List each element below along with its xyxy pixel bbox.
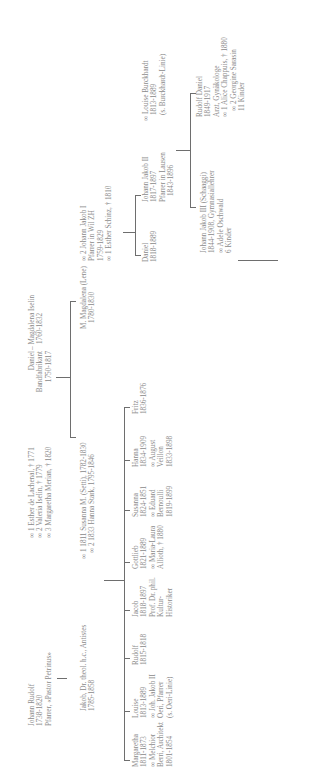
tick-margaretha xyxy=(124,760,130,761)
person-daniel-1818: Daniel 1818-1889 xyxy=(142,231,159,262)
person-louise-burckhardt: ∞ Louise Burckhardt 1813-1889 (s. Burckh… xyxy=(142,54,167,121)
name: Jakob, Dr. theol. h.c., Antistes xyxy=(80,625,88,711)
person-johann-jakob-iii: Johann Jakob III (Schaaggi) 1844-1908, G… xyxy=(200,170,234,253)
dates: 1738-1820 xyxy=(36,652,44,726)
person-johann-rudolf: Johann Rudolf 1738-1820 Pfarrer, «Pastor… xyxy=(28,652,53,726)
connector-johann-rudolf xyxy=(57,678,67,679)
person-gottlieb: Gottlieb 1821-1889 ∞ Maria-Laura Allioth… xyxy=(132,525,166,569)
tick-jacob xyxy=(124,610,130,611)
person-rudolf: Rudolf 1815-1818 xyxy=(132,634,149,665)
connector-johann-jakob-ii xyxy=(176,150,190,151)
person-fritz: Fritz 1836-1876 xyxy=(132,383,149,414)
tick-gottlieb xyxy=(124,562,130,563)
name: – Magdalena Iselin xyxy=(28,295,36,350)
family-tree: Johann Rudolf 1738-1820 Pfarrer, «Pastor… xyxy=(0,0,310,781)
dates: 1750-1817 xyxy=(45,351,53,419)
tick-hanna xyxy=(124,460,130,461)
connector-continuation xyxy=(238,260,278,261)
connector-jakob xyxy=(104,580,124,581)
person-rudolf-daniel: Rudolf Daniel 1849-1917 Arzt, Gynäkologe… xyxy=(196,37,246,117)
spouse-2: ∞ 2 1833 Hanna Stark, 1795-1846 xyxy=(88,442,96,559)
connector-johann-jakob-i-children xyxy=(135,196,136,256)
person-susanna: Susanna 1824-1851 ∞ Eduard Bernoulli 181… xyxy=(132,486,174,517)
person-johann-jakob-ii: Johann Jakob II 1817-1897 Pfarrer in Lau… xyxy=(142,152,176,202)
name: ∞ 2 Johann Jakob I xyxy=(80,186,88,261)
tick-johann-jakob-iii xyxy=(190,207,196,208)
name: Daniel xyxy=(28,351,36,419)
spouse-1: ∞ 1 Esther de Lachenal, † 1771 xyxy=(28,447,36,538)
person-margaretha: Margaretha 1811-1873 ∞ Melchior Berri, A… xyxy=(132,722,174,767)
tick-johann-jakob-ii xyxy=(135,195,141,196)
person-m-magdalena: M. Magdalena (Lene) 1780-1830 xyxy=(80,266,97,329)
connector-daniel-children xyxy=(70,302,71,438)
connector-daniel-right xyxy=(70,301,76,302)
connector-daniel-left xyxy=(70,437,76,438)
tick-fritz xyxy=(124,407,130,408)
person-louise: Louise 1813-1889 ∞ Joh. Jakob II Oeri, P… xyxy=(132,674,174,718)
person-johann-jakob-i: ∞ 2 Johann Jakob I Pfarrer in Wil ZH 175… xyxy=(80,186,114,261)
connector-johann-jakob-ii-children xyxy=(190,94,191,208)
spouse-1: ∞ 1 Esther Schinz, † 1810 xyxy=(105,186,113,261)
dates: 1760-1832 xyxy=(36,295,44,350)
role: Pfarrer in Wil ZH xyxy=(88,186,96,261)
tick-susanna xyxy=(124,510,130,511)
connector-daniel xyxy=(56,377,70,378)
connector-johann-jakob-i xyxy=(123,232,135,233)
person-jakob-antistes: Jakob, Dr. theol. h.c., Antistes 1785-18… xyxy=(80,625,97,711)
spouse-2: ∞ 2 Valeria Iselin, † 1779 xyxy=(36,447,44,538)
spouse-1: ∞ 1 1811 Susanna M. (Setti), 1782-1830 xyxy=(80,442,88,559)
spouses-jakob: ∞ 1 1811 Susanna M. (Setti), 1782-1830 ∞… xyxy=(80,442,97,559)
spouses-johann-rudolf: ∞ 1 Esther de Lachenal, † 1771 ∞ 2 Valer… xyxy=(28,447,53,538)
tick-daniel-1818 xyxy=(135,255,141,256)
role: Pfarrer, «Pastor Petrinus» xyxy=(45,652,53,726)
person-jacob-historiker: Jacob 1818-1897 Prof. Dr. phil. Kultur- … xyxy=(132,577,174,617)
dates: 1759-1829 xyxy=(97,186,105,261)
name: M. Magdalena (Lene) xyxy=(80,266,88,329)
dates: 1785-1858 xyxy=(88,625,96,711)
role: Bandfabrikant xyxy=(36,351,44,419)
name: Johann Rudolf xyxy=(28,652,36,726)
person-magdalena-iselin: – Magdalena Iselin 1760-1832 xyxy=(28,295,45,350)
spouse-3: ∞ 3 Margaretha Merian, † 1820 xyxy=(45,447,53,538)
tick-rudolf xyxy=(124,658,130,659)
tick-louise xyxy=(124,711,130,712)
dates: 1780-1830 xyxy=(88,266,96,329)
person-hanna: Hanna 1834-1909 ∞ August Veillon 1833-18… xyxy=(132,436,174,467)
person-daniel-bandfabrikant: Daniel Bandfabrikant 1750-1817 xyxy=(28,351,53,419)
